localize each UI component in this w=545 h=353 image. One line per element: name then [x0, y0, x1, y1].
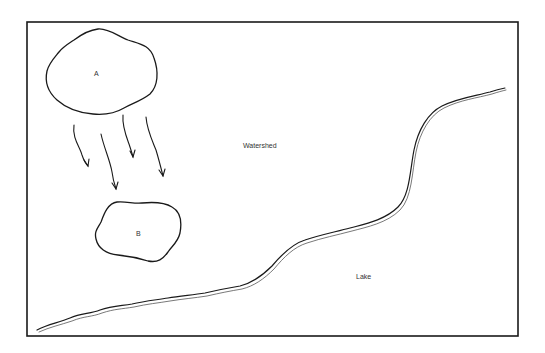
lake-label: Lake [356, 273, 371, 280]
flow-arrow-icon [74, 125, 89, 166]
flow-arrow-icon [101, 134, 118, 189]
flow-arrow-icon [123, 115, 135, 157]
watershed-diagram [0, 0, 545, 353]
region-a-label: A [94, 70, 99, 77]
flow-arrow-icon [146, 117, 165, 176]
region-b-label: B [136, 230, 141, 237]
region-a-outline [46, 29, 157, 114]
diagram-frame [27, 22, 518, 336]
watershed-label: Watershed [243, 142, 277, 149]
flow-arrows [74, 115, 165, 189]
shoreline [37, 88, 506, 332]
